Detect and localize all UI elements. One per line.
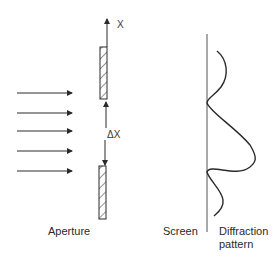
screen-label: Screen [163,225,198,237]
incident-rays [17,93,72,171]
aperture-lower-bar [99,166,106,219]
aperture-upper-bar [100,47,107,99]
slit-width-label: ΔX [107,129,120,141]
diffraction-pattern-label-line1: Diffraction [219,225,268,237]
x-axis-label: X [117,19,124,31]
diffraction-pattern-label-line2: pattern [219,238,253,250]
aperture-label: Aperture [48,225,90,237]
diffraction-pattern-curve [207,51,255,216]
diffraction-diagram [0,0,277,263]
